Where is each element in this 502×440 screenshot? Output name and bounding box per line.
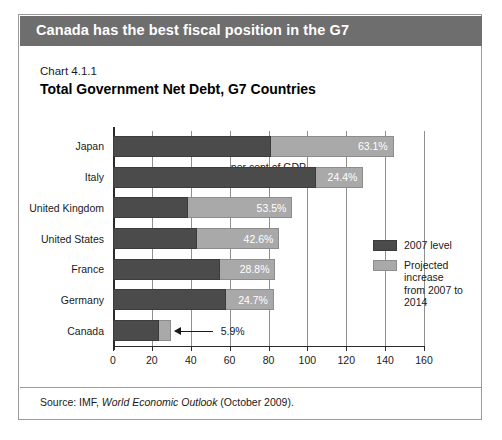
bar-segment-projected-increase: 24.7% <box>226 289 274 310</box>
bar-row: France28.8% <box>113 259 275 280</box>
gridline <box>307 131 308 346</box>
category-label: Italy <box>85 171 104 183</box>
source-divider <box>20 387 482 388</box>
bar-data-label: 42.6% <box>244 233 274 245</box>
source-prefix: Source: IMF, <box>40 396 102 408</box>
legend-label-projected-increase: Projected increase from 2007 to 2014 <box>404 259 483 309</box>
x-tick-label: 120 <box>337 354 355 366</box>
x-tick-label: 80 <box>263 354 275 366</box>
category-label: Japan <box>75 140 104 152</box>
gridline <box>346 131 347 346</box>
callout-arrow-icon <box>175 331 213 332</box>
bar-row: Italy24.4% <box>113 167 363 188</box>
legend-item-projected-increase: Projected increase from 2007 to 2014 <box>373 259 483 309</box>
x-tick <box>269 346 270 351</box>
x-tick-label: 160 <box>415 354 433 366</box>
bar-segment-2007-level <box>113 167 316 188</box>
x-tick <box>191 346 192 351</box>
x-tick <box>346 346 347 351</box>
bar-segment-2007-level <box>113 320 159 341</box>
source-publication: World Economic Outlook <box>102 396 218 408</box>
bar-segment-projected-increase: 63.1% <box>271 136 394 157</box>
screenshot-root: Canada has the best fiscal position in t… <box>0 0 502 440</box>
legend-item-2007-level: 2007 level <box>373 239 483 252</box>
bar-row: United Kingdom53.5% <box>113 197 292 218</box>
x-tick <box>113 346 114 351</box>
bar-data-label: 63.1% <box>358 140 388 152</box>
x-tick <box>230 346 231 351</box>
source-suffix: (October 2009). <box>217 396 293 408</box>
x-tick <box>385 346 386 351</box>
plot-wrapper: 020406080100120140160 per cent of GDP Ja… <box>19 15 483 421</box>
x-tick-label: 40 <box>185 354 197 366</box>
bar-data-label: 24.4% <box>328 171 358 183</box>
x-tick-label: 100 <box>299 354 317 366</box>
category-label: Canada <box>67 325 104 337</box>
x-tick-label: 20 <box>146 354 158 366</box>
legend-swatch-dark-icon <box>373 240 397 251</box>
bar-segment-2007-level <box>113 259 220 280</box>
bar-data-label: 53.5% <box>257 202 287 214</box>
bar-segment-projected-increase: 28.8% <box>220 259 276 280</box>
bar-row: Japan63.1% <box>113 136 394 157</box>
category-label: United Kingdom <box>29 202 104 214</box>
bar-segment-projected-increase: 53.5% <box>188 197 292 218</box>
legend-label-2007-level: 2007 level <box>404 239 452 252</box>
bar-segment-2007-level <box>113 197 188 218</box>
bar-row: United States42.6% <box>113 228 279 249</box>
legend-label-line2: from 2007 to 2014 <box>404 284 463 309</box>
bar-data-label: 5.9% <box>221 325 245 337</box>
x-tick-label: 140 <box>376 354 394 366</box>
bar-segment-projected-increase: 42.6% <box>197 228 280 249</box>
category-label: Germany <box>61 294 104 306</box>
chart-card: Canada has the best fiscal position in t… <box>18 14 482 420</box>
bar-data-label: 28.8% <box>240 263 270 275</box>
bar-row: Germany24.7% <box>113 289 274 310</box>
x-tick <box>307 346 308 351</box>
legend-swatch-light-icon <box>373 260 397 271</box>
bar-segment-2007-level <box>113 289 226 310</box>
x-axis-line: 020406080100120140160 <box>113 346 424 347</box>
chart-legend: 2007 level Projected increase from 2007 … <box>373 239 483 316</box>
category-label: France <box>71 263 104 275</box>
bar-segment-2007-level <box>113 228 197 249</box>
bar-data-label: 24.7% <box>238 294 268 306</box>
bar-row: Canada5.9% <box>113 320 171 341</box>
category-label: United States <box>41 233 104 245</box>
source-note: Source: IMF, World Economic Outlook (Oct… <box>40 396 294 408</box>
x-tick <box>424 346 425 351</box>
x-tick-label: 0 <box>110 354 116 366</box>
x-tick-label: 60 <box>224 354 236 366</box>
legend-label-line1: Projected increase <box>404 259 448 284</box>
bar-segment-projected-increase: 24.4% <box>316 167 363 188</box>
x-tick <box>152 346 153 351</box>
bar-segment-2007-level <box>113 136 271 157</box>
bar-segment-projected-increase <box>159 320 170 341</box>
